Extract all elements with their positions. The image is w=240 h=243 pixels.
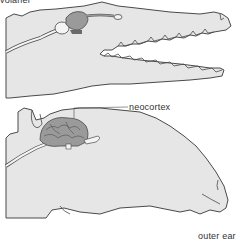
top-label: volaner	[0, 0, 31, 5]
reptile-head	[6, 2, 231, 98]
neocortex-label: neocortex	[129, 103, 170, 112]
brain-comparison-figure: volaner neocortex outer ear	[0, 0, 240, 243]
mammal-head	[6, 107, 228, 218]
outer-ear-label: outer ear	[198, 232, 236, 241]
